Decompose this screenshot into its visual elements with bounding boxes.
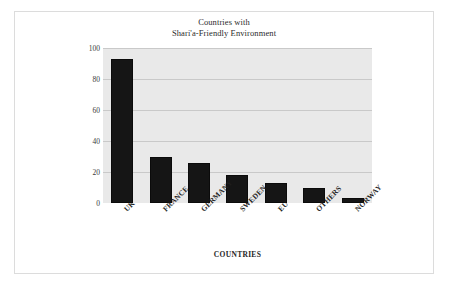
y-axis-tick-label: 20 [93, 168, 101, 177]
bar-germany[interactable] [188, 163, 210, 203]
y-axis-tick-label: 0 [96, 199, 100, 208]
x-axis-title: COUNTRIES [103, 250, 372, 259]
bar-slot [103, 48, 141, 203]
y-axis-tick-label: 40 [93, 137, 101, 146]
y-axis-tick-label: 100 [89, 44, 100, 53]
x-axis-tick-labels: UKFRANCEGERMANYSWEDENEUOTHERSNORWAY [103, 203, 372, 249]
chart-title-line-2: Shari'a-Friendly Environment [14, 28, 434, 39]
bar-slot [334, 48, 372, 203]
bar-france[interactable] [150, 157, 172, 204]
y-axis-tick-label: 60 [93, 106, 101, 115]
bar-slot [295, 48, 333, 203]
chart-title-line-1: Countries with [14, 17, 434, 28]
chart-figure: Countries with Shari'a-Friendly Environm… [0, 0, 449, 288]
bar-slot [141, 48, 179, 203]
bar-slot [257, 48, 295, 203]
bar-slot [218, 48, 256, 203]
bar-series [103, 48, 372, 203]
plot-area [103, 48, 372, 203]
bar-uk[interactable] [111, 59, 133, 203]
chart-title: Countries with Shari'a-Friendly Environm… [14, 17, 434, 38]
bar-slot [180, 48, 218, 203]
y-axis-tick-label: 80 [93, 75, 101, 84]
y-axis: 020406080100 [74, 48, 100, 203]
